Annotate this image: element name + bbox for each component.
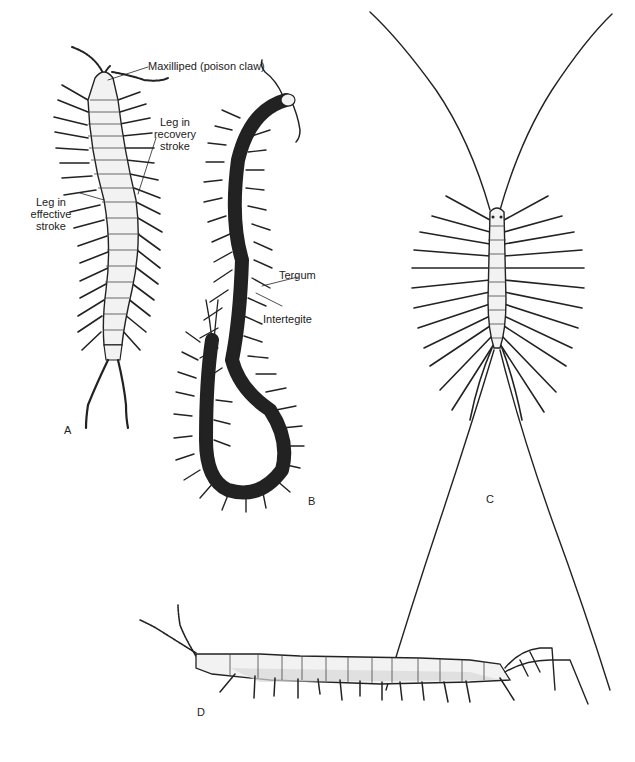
centipede-d	[140, 605, 588, 704]
panel-label-d: D	[197, 706, 205, 718]
label-leg-recovery-stroke: Leg in recovery stroke	[150, 116, 200, 152]
centipede-a	[54, 47, 168, 428]
label-line: stroke	[150, 140, 200, 152]
label-maxilliped: Maxilliped (poison claw)	[148, 60, 265, 72]
label-line: recovery	[150, 128, 200, 140]
label-line: stroke	[22, 220, 80, 232]
panel-label-b: B	[308, 495, 315, 507]
centipede-figure: .ink { stroke: #222; fill: none; stroke-…	[0, 0, 635, 762]
label-line: effective	[22, 208, 80, 220]
label-tergum: Tergum	[279, 269, 316, 281]
label-line: Leg in	[22, 196, 80, 208]
panel-label-a: A	[64, 424, 71, 436]
centipede-c	[370, 12, 612, 690]
label-leg-effective-stroke: Leg in effective stroke	[22, 196, 80, 232]
label-line: Leg in	[150, 116, 200, 128]
panel-label-c: C	[486, 493, 494, 505]
label-intertegite: Intertegite	[263, 313, 312, 325]
